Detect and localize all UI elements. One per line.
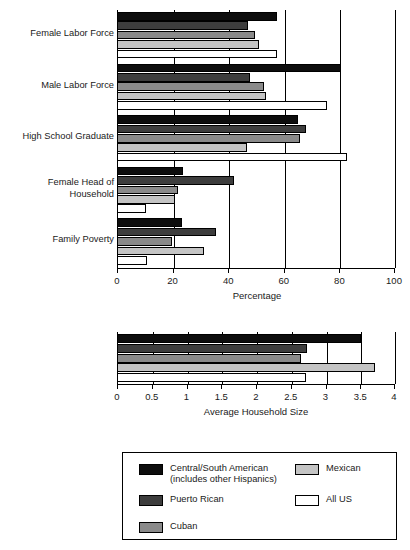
xticklabel-80: 80: [319, 275, 359, 286]
legend-label-central-south-american: Central/South American (includes other H…: [170, 463, 277, 485]
xtick-1p5: [221, 384, 222, 389]
xtick-80: [339, 268, 340, 273]
xtick-4: [394, 384, 395, 389]
xticklabel-60: 60: [264, 275, 304, 286]
legend-entry-central-south-american: Central/South American (includes other H…: [139, 463, 277, 485]
bar-group-high-school-graduate: [118, 113, 395, 165]
bar-central-south-american: [118, 218, 182, 227]
bar-cuban: [118, 31, 255, 40]
bar-mexican: [118, 40, 259, 49]
legend-label-mexican: Mexican: [326, 463, 361, 474]
xtick-0: [117, 268, 118, 273]
legend-label-cuban: Cuban: [170, 521, 197, 532]
bar-group-family-poverty: [118, 216, 395, 268]
xtick-40: [228, 268, 229, 273]
bar-group-male-labor-force: [118, 62, 395, 114]
bar-central-south-american: [118, 334, 361, 343]
xticklabel-100: 100: [374, 275, 410, 286]
legend-entry-cuban: Cuban: [139, 521, 197, 533]
bar-puerto-rican: [118, 176, 234, 185]
legend-entry-puerto-rican: Puerto Rican: [139, 494, 224, 506]
bar-all-us: [118, 153, 347, 162]
bar-cuban: [118, 237, 172, 246]
bar-all-us: [118, 204, 146, 213]
bar-central-south-american: [118, 115, 298, 124]
gridline-100: [395, 10, 396, 268]
category-label-female-head-of-household: Female Head of Household: [0, 177, 114, 200]
percentage-bar-chart: Female Labor Force Male Labor Force High…: [0, 0, 410, 310]
bar-mexican: [118, 92, 266, 101]
bar-cuban: [118, 82, 264, 91]
bar-group-female-head-of-household: [118, 165, 395, 217]
xticklabel-40: 40: [208, 275, 248, 286]
chart2-plot-area: [117, 332, 395, 384]
bar-mexican: [118, 195, 175, 204]
xtick-3: [326, 384, 327, 389]
bar-mexican: [118, 247, 204, 256]
bar-all-us: [118, 373, 306, 382]
category-label-female-labor-force: Female Labor Force: [0, 28, 114, 40]
chart1-plot-area: [117, 10, 395, 268]
bar-cuban: [118, 134, 300, 143]
xtick-60: [284, 268, 285, 273]
xticklabel-4: 4: [374, 391, 410, 402]
category-label-male-labor-force: Male Labor Force: [0, 80, 114, 92]
bar-cuban: [118, 186, 178, 195]
bar-cuban: [118, 354, 301, 363]
chart1-x-axis-title: Percentage: [177, 290, 337, 301]
legend-swatch-central-south-american: [139, 464, 163, 475]
xtick-3p5: [360, 384, 361, 389]
xtick-0p5: [152, 384, 153, 389]
legend-swatch-mexican: [295, 464, 319, 475]
bar-all-us: [118, 50, 277, 59]
bar-all-us: [118, 101, 327, 110]
bar-puerto-rican: [118, 344, 307, 353]
bar-puerto-rican: [118, 21, 248, 30]
legend-label-puerto-rican: Puerto Rican: [170, 494, 224, 505]
bar-puerto-rican: [118, 73, 250, 82]
xticklabel-0: 0: [97, 275, 137, 286]
bar-puerto-rican: [118, 228, 216, 237]
chart-legend: Central/South American (includes other H…: [122, 452, 397, 540]
xtick-2: [256, 384, 257, 389]
category-label-high-school-graduate: High School Graduate: [0, 131, 114, 143]
xtick-0: [117, 384, 118, 389]
legend-swatch-cuban: [139, 522, 163, 533]
xtick-20: [173, 268, 174, 273]
legend-entry-all-us: All US: [295, 494, 352, 506]
bar-group-female-labor-force: [118, 10, 395, 62]
bar-all-us: [118, 256, 147, 265]
bar-mexican: [118, 143, 247, 152]
legend-label-all-us: All US: [326, 494, 352, 505]
chart1-x-axis: [117, 268, 395, 269]
bar-mexican: [118, 363, 375, 372]
legend-swatch-all-us: [295, 495, 319, 506]
xtick-2p5: [291, 384, 292, 389]
xtick-100: [394, 268, 395, 273]
category-label-family-poverty: Family Poverty: [0, 234, 114, 246]
household-size-bar-chart: 0 0.5 1 1.5 2 2.5 3 3.5 4 Average Househ…: [0, 330, 410, 425]
chart2-x-axis-title: Average Household Size: [176, 406, 336, 417]
xtick-1: [187, 384, 188, 389]
bar-central-south-american: [118, 12, 277, 21]
gridline-3p5: [361, 332, 362, 384]
xticklabel-20: 20: [153, 275, 193, 286]
legend-swatch-puerto-rican: [139, 495, 163, 506]
bar-central-south-american: [118, 167, 183, 176]
bar-central-south-american: [118, 64, 341, 73]
legend-entry-mexican: Mexican: [295, 463, 361, 475]
gridline-4: [395, 332, 396, 384]
bar-puerto-rican: [118, 125, 306, 134]
